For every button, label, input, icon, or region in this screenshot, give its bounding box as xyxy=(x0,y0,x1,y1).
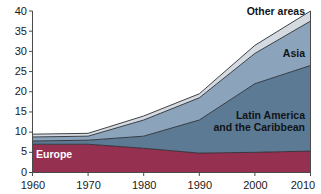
x-tick-2000: 2000 xyxy=(243,179,267,191)
y-tick-30: 30 xyxy=(15,45,27,57)
x-tick-1970: 1970 xyxy=(76,179,100,191)
y-tick-35: 35 xyxy=(15,25,27,37)
x-tick-1980: 1980 xyxy=(132,179,156,191)
x-tick-1960: 1960 xyxy=(21,179,45,191)
y-tick-15: 15 xyxy=(15,105,27,117)
series-label-other-areas: Other areas xyxy=(247,5,306,17)
series-label-latin-america-line1: Latin America xyxy=(236,109,305,121)
chart-canvas: 0 5 10 15 20 25 30 35 40 1960 1970 1980 … xyxy=(0,0,321,194)
y-tick-0: 0 xyxy=(21,166,27,178)
y-tick-10: 10 xyxy=(15,125,27,137)
series-label-europe: Europe xyxy=(36,148,72,160)
y-tick-40: 40 xyxy=(15,5,27,17)
series-label-latin-america-line2: and the Caribbean xyxy=(213,121,305,133)
x-tick-1990: 1990 xyxy=(188,179,212,191)
y-tick-5: 5 xyxy=(21,145,27,157)
y-tick-25: 25 xyxy=(15,65,27,77)
stacked-area-chart: 0 5 10 15 20 25 30 35 40 1960 1970 1980 … xyxy=(0,0,321,194)
x-tick-2010: 2010 xyxy=(291,179,315,191)
series-label-asia: Asia xyxy=(283,47,305,59)
y-tick-20: 20 xyxy=(15,85,27,97)
